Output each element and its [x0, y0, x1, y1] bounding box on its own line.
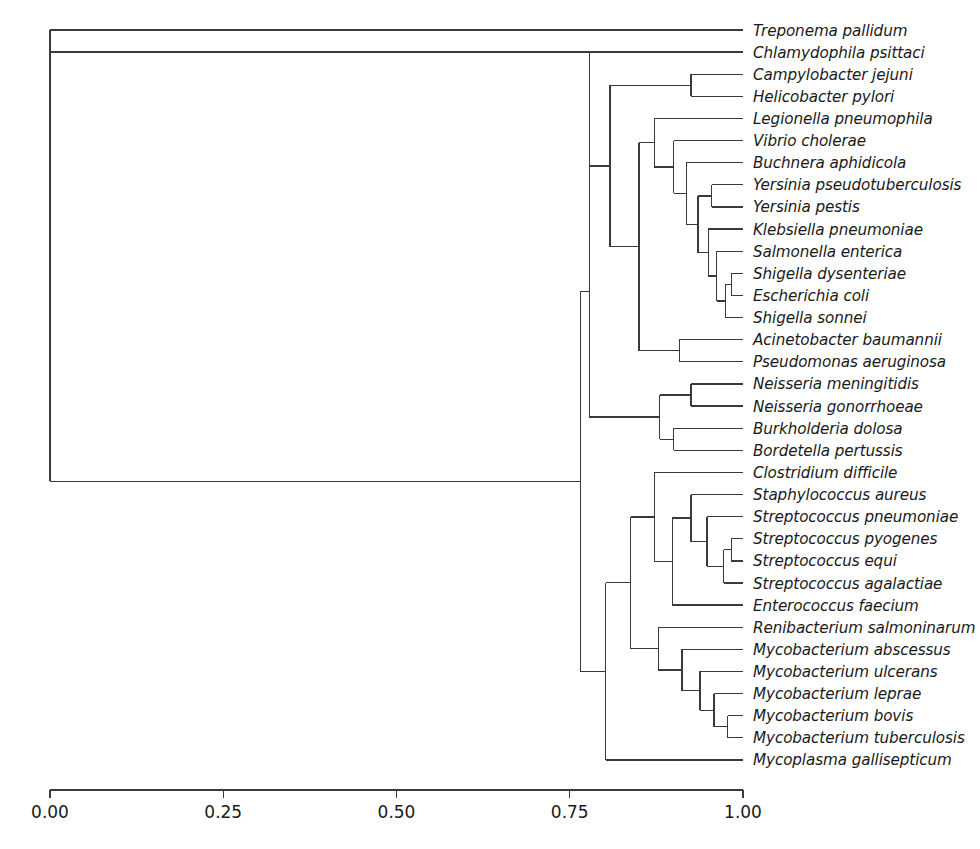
leaf-label: Mycoplasma gallisepticum	[753, 751, 952, 769]
leaf-label: Pseudomonas aeruginosa	[753, 353, 946, 371]
leaf-label-layer: Treponema pallidumChlamydophila psittaci…	[752, 22, 975, 770]
axis-tick-label: 0.75	[551, 802, 589, 822]
leaf-label: Renibacterium salmoninarum	[753, 619, 975, 637]
dendrogram-canvas: Treponema pallidumChlamydophila psittaci…	[0, 0, 980, 849]
leaf-label: Mycobacterium abscessus	[753, 641, 951, 659]
leaf-label: Bordetella pertussis	[753, 442, 903, 460]
leaf-label: Treponema pallidum	[753, 22, 907, 40]
leaf-label: Enterococcus faecium	[753, 597, 919, 615]
leaf-label: Shigella sonnei	[753, 309, 867, 327]
leaf-label: Neisseria gonorrhoeae	[753, 398, 923, 416]
leaf-label: Shigella dysenteriae	[753, 265, 906, 283]
leaf-label: Acinetobacter baumannii	[752, 331, 943, 349]
leaf-label: Mycobacterium leprae	[753, 685, 921, 703]
leaf-label: Neisseria meningitidis	[753, 375, 919, 393]
leaf-label: Mycobacterium tuberculosis	[753, 729, 965, 747]
leaf-label: Staphylococcus aureus	[753, 486, 927, 504]
leaf-label: Yersinia pestis	[753, 198, 860, 216]
tree-branch-layer	[50, 30, 743, 760]
leaf-label: Streptococcus agalactiae	[753, 575, 942, 593]
leaf-label: Mycobacterium bovis	[753, 707, 913, 725]
axis-layer: 0.000.250.500.751.00	[31, 790, 762, 822]
leaf-label: Yersinia pseudotuberculosis	[753, 176, 962, 194]
leaf-label: Clostridium difficile	[753, 464, 897, 482]
leaf-label: Burkholderia dolosa	[753, 420, 903, 438]
leaf-label: Klebsiella pneumoniae	[753, 221, 923, 239]
leaf-label: Buchnera aphidicola	[753, 154, 906, 172]
leaf-label: Mycobacterium ulcerans	[753, 663, 938, 681]
leaf-label: Legionella pneumophila	[753, 110, 933, 128]
leaf-label: Campylobacter jejuni	[753, 66, 914, 84]
leaf-label: Escherichia coli	[753, 287, 870, 305]
leaf-label: Streptococcus pneumoniae	[753, 508, 958, 526]
phylogenetic-tree-figure: Treponema pallidumChlamydophila psittaci…	[0, 0, 980, 849]
leaf-label: Vibrio cholerae	[753, 132, 866, 150]
axis-tick-label: 1.00	[724, 802, 762, 822]
axis-tick-label: 0.25	[204, 802, 242, 822]
axis-tick-label: 0.50	[378, 802, 416, 822]
leaf-label: Streptococcus pyogenes	[753, 530, 938, 548]
leaf-label: Streptococcus equi	[753, 552, 898, 570]
leaf-label: Helicobacter pylori	[753, 88, 895, 106]
leaf-label: Salmonella enterica	[753, 243, 902, 261]
leaf-label: Chlamydophila psittaci	[753, 44, 926, 62]
axis-tick-label: 0.00	[31, 802, 69, 822]
